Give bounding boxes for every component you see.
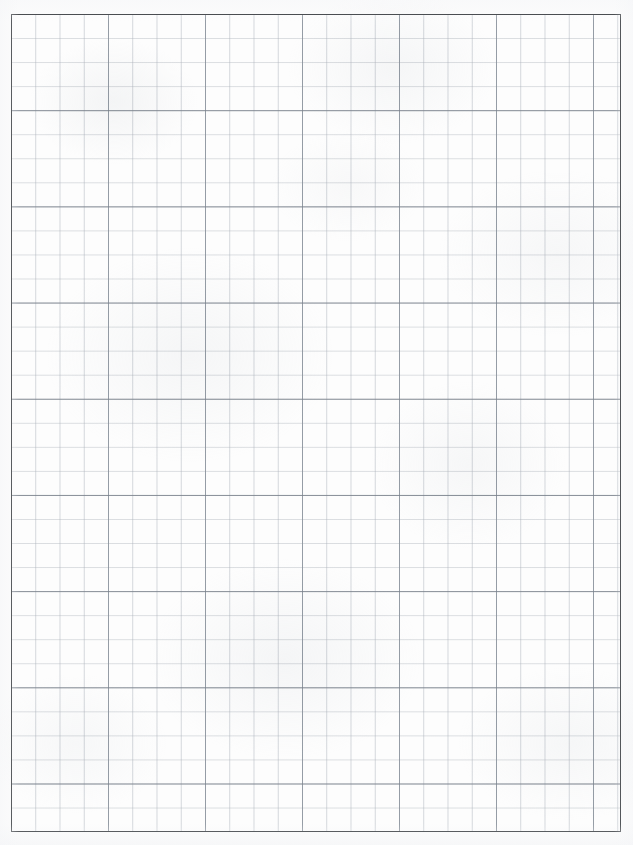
grid-area [11,14,621,832]
graph-paper-sheet [0,0,633,845]
major-horizontal-grid-lines [11,14,621,832]
